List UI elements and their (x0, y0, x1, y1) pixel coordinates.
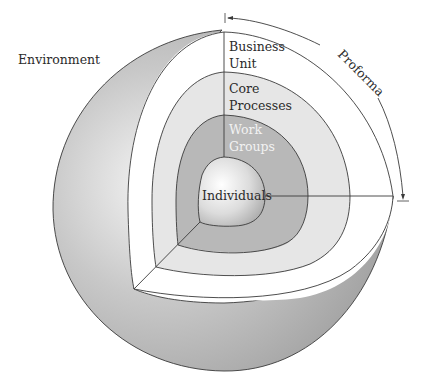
label-proforma: Proforma (335, 47, 388, 100)
label-individuals: Individuals (202, 188, 272, 203)
label-work-groups-line2: Groups (229, 139, 275, 154)
label-core-processes-line2: Processes (229, 98, 292, 113)
arrowhead-left-icon (227, 16, 233, 20)
organization-sphere-diagram: Environment Proforma Business Unit Core … (0, 0, 429, 380)
label-core-processes-line1: Core (229, 81, 259, 96)
label-business-unit-line2: Unit (229, 56, 257, 71)
label-environment: Environment (18, 52, 100, 67)
label-business-unit-line1: Business (229, 39, 285, 54)
arrowhead-down-icon (401, 194, 405, 200)
label-work-groups-line1: Work (229, 122, 263, 137)
